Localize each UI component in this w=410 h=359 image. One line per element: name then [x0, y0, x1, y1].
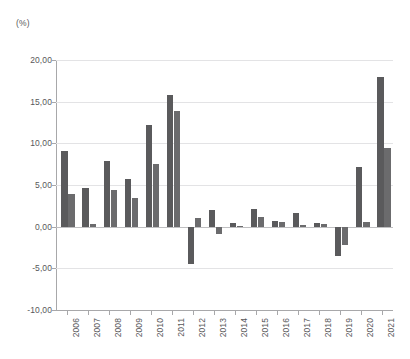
y-axis-unit-label: (%): [16, 18, 30, 28]
x-tick-label: 2020: [365, 318, 375, 337]
y-tick-mark: [52, 102, 56, 103]
bar: [209, 210, 215, 227]
x-tick-label: 2018: [323, 318, 333, 337]
y-tick-label: 20,00: [30, 55, 52, 65]
bar: [90, 224, 96, 227]
bar: [237, 226, 243, 227]
bar: [104, 161, 110, 227]
bar: [132, 198, 138, 227]
y-tick-label: 5,00: [35, 180, 52, 190]
bar: [216, 227, 222, 235]
bar: [279, 222, 285, 227]
bar-chart: (%) 20,0015,0010,005,000,00-5,00-10,00 2…: [0, 0, 410, 359]
y-tick-label: 10,00: [30, 138, 52, 148]
bar: [82, 188, 88, 227]
x-tick-label: 2016: [281, 318, 291, 337]
x-tick-label: 2015: [260, 318, 270, 337]
x-tick-mark: [298, 311, 299, 315]
y-tick-mark: [52, 60, 56, 61]
grid-line: [56, 268, 393, 269]
grid-line: [56, 102, 393, 103]
plot-area: [56, 60, 393, 310]
bar: [363, 222, 369, 227]
y-tick-label: 0,00: [35, 222, 52, 232]
y-tick-label: -5,00: [32, 263, 52, 273]
x-tick-label: 2007: [92, 318, 102, 337]
y-axis-tick-labels: 20,0015,0010,005,000,00-5,00-10,00: [0, 60, 52, 310]
bar: [188, 227, 194, 265]
bar: [342, 227, 348, 245]
bar: [153, 164, 159, 227]
bar: [384, 148, 390, 227]
bar: [321, 224, 327, 227]
bar: [300, 225, 306, 227]
x-tick-mark: [382, 311, 383, 315]
x-tick-label: 2017: [302, 318, 312, 337]
x-tick-mark: [172, 311, 173, 315]
bar: [230, 223, 236, 226]
x-tick-label: 2009: [134, 318, 144, 337]
x-tick-mark: [109, 311, 110, 315]
y-tick-mark: [52, 268, 56, 269]
grid-line: [56, 143, 393, 144]
x-tick-label: 2012: [197, 318, 207, 337]
bar: [174, 111, 180, 227]
x-axis-line: [56, 310, 393, 311]
y-tick-label: 15,00: [30, 97, 52, 107]
x-tick-mark: [88, 311, 89, 315]
bar: [314, 223, 320, 226]
y-tick-label: -10,00: [27, 305, 52, 315]
x-tick-label: 2019: [344, 318, 354, 337]
bar: [293, 213, 299, 226]
x-tick-mark: [130, 311, 131, 315]
x-tick-label: 2013: [218, 318, 228, 337]
bar: [258, 217, 264, 227]
x-tick-label: 2011: [176, 318, 186, 337]
x-tick-mark: [340, 311, 341, 315]
bar: [195, 218, 201, 227]
bar: [335, 227, 341, 256]
x-tick-mark: [235, 311, 236, 315]
bar: [167, 95, 173, 227]
bar: [146, 125, 152, 227]
x-tick-mark: [67, 311, 68, 315]
x-tick-mark: [361, 311, 362, 315]
x-tick-mark: [256, 311, 257, 315]
x-tick-label: 2021: [386, 318, 396, 337]
x-tick-label: 2014: [239, 318, 249, 337]
y-tick-mark: [52, 185, 56, 186]
bar: [61, 151, 67, 227]
bar: [68, 194, 74, 227]
x-tick-label: 2008: [113, 318, 123, 337]
bar: [111, 190, 117, 227]
bar: [272, 221, 278, 227]
bar: [251, 209, 257, 227]
y-tick-mark: [52, 143, 56, 144]
x-tick-mark: [214, 311, 215, 315]
y-tick-mark: [52, 227, 56, 228]
grid-line: [56, 60, 393, 61]
bar: [356, 167, 362, 227]
bar: [377, 77, 383, 227]
x-tick-mark: [193, 311, 194, 315]
bar: [125, 179, 131, 227]
x-tick-label: 2010: [155, 318, 165, 337]
x-tick-mark: [277, 311, 278, 315]
x-tick-mark: [151, 311, 152, 315]
x-tick-mark: [319, 311, 320, 315]
x-tick-label: 2006: [71, 318, 81, 337]
